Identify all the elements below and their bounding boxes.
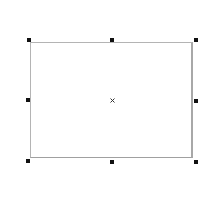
resize-handle-middle-left[interactable] bbox=[26, 98, 30, 102]
resize-handle-bottom-left[interactable] bbox=[26, 159, 30, 163]
resize-handle-top-right[interactable] bbox=[194, 38, 198, 42]
resize-handle-top-left[interactable] bbox=[27, 38, 31, 42]
resize-handle-bottom-center[interactable] bbox=[110, 160, 114, 164]
resize-handle-top-center[interactable] bbox=[110, 38, 114, 42]
center-point-icon[interactable] bbox=[110, 98, 115, 103]
drawing-canvas[interactable] bbox=[0, 0, 222, 211]
resize-handle-middle-right[interactable] bbox=[194, 99, 198, 103]
resize-handle-bottom-right[interactable] bbox=[194, 160, 198, 164]
